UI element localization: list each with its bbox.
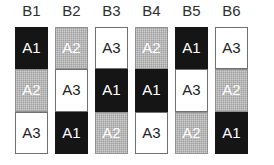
block-cell: A2 [175,112,208,154]
block-cell-label: A1 [222,125,240,141]
block-cell: A1 [135,69,168,111]
block-cell-label: A3 [102,40,120,56]
block-design-figure: B1A1A2A3B2A2A3A1B3A3A1A2B4A2A1A3B5A1A3A2… [0,0,274,165]
block-cell-label: A3 [222,40,240,56]
block-cell-label: A1 [182,40,200,56]
block-cell: A2 [55,27,88,69]
column-header-label: B5 [175,2,208,20]
block-cell-label: A1 [22,40,40,56]
block-cell-label: A2 [62,40,80,56]
column-cell-stack: A2A3A1 [55,27,88,154]
block-cell: A3 [215,27,248,69]
block-cell-label: A3 [142,125,160,141]
block-cell-label: A3 [62,82,80,98]
block-cell-label: A1 [102,82,120,98]
column-header-label: B2 [55,2,88,20]
block-cell-label: A1 [62,125,80,141]
block-cell: A2 [15,69,48,111]
block-cell: A1 [175,27,208,69]
block-cell-label: A2 [222,82,240,98]
block-cell: A2 [215,69,248,111]
block-cell: A3 [175,69,208,111]
column-cell-stack: A3A2A1 [215,27,248,154]
block-cell: A3 [135,112,168,154]
column-cell-stack: A1A3A2 [175,27,208,154]
block-cell-label: A2 [22,82,40,98]
block-cell: A3 [15,112,48,154]
block-cell-label: A3 [22,125,40,141]
block-cell: A2 [135,27,168,69]
column-header-label: B4 [135,2,168,20]
block-cell-label: A2 [182,125,200,141]
block-cell-label: A2 [142,40,160,56]
block-cell: A3 [55,69,88,111]
column-cell-stack: A2A1A3 [135,27,168,154]
block-cell-label: A2 [102,125,120,141]
block-cell-label: A3 [182,82,200,98]
block-cell: A2 [95,112,128,154]
column-header-label: B6 [215,2,248,20]
block-cell: A3 [95,27,128,69]
column-header-label: B3 [95,2,128,20]
column-header-label: B1 [15,2,48,20]
column-cell-stack: A3A1A2 [95,27,128,154]
column-cell-stack: A1A2A3 [15,27,48,154]
block-cell-label: A1 [142,82,160,98]
block-cell: A1 [55,112,88,154]
block-cell: A1 [15,27,48,69]
block-cell: A1 [95,69,128,111]
block-cell: A1 [215,112,248,154]
